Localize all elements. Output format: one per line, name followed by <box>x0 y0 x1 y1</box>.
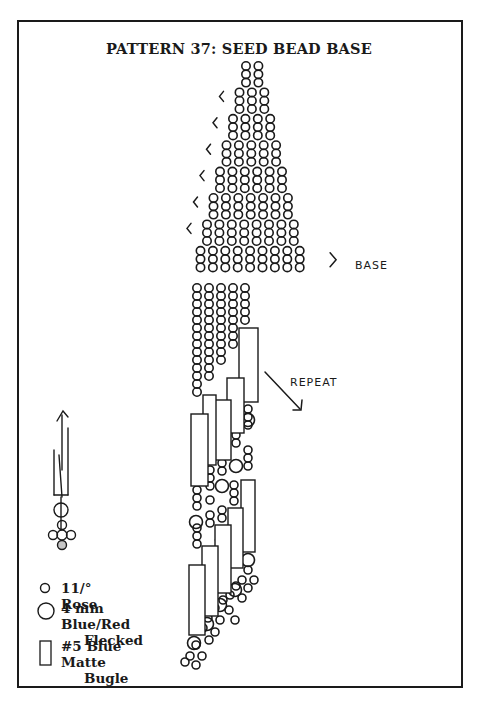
bugle-section <box>189 328 258 635</box>
seed-bead-pyramid <box>196 62 304 272</box>
large-circle-icon <box>35 600 57 622</box>
base-label: BASE <box>355 259 388 272</box>
small-circle-icon <box>38 581 52 595</box>
thread-path-icon <box>49 411 76 550</box>
rectangle-icon <box>39 640 55 668</box>
legend-line-2: Bugle <box>61 670 128 686</box>
repeat-label: REPEAT <box>290 376 338 389</box>
legend-label-bugle: #5 Blue Matte Bugle <box>61 638 128 686</box>
legend-line-1: #5 Blue Matte <box>61 638 121 670</box>
legend-line-1: 4 mm Blue/Red <box>61 600 130 632</box>
